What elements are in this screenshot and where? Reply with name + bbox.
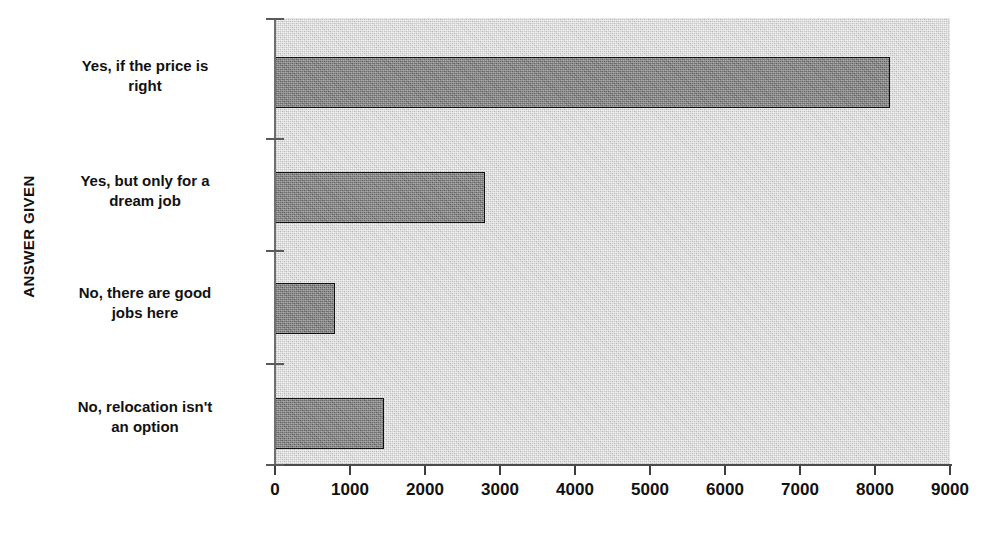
bar-1	[275, 172, 485, 223]
category-label-3-line-1: an option	[25, 417, 265, 437]
category-label-2-line-1: jobs here	[25, 303, 265, 323]
category-label-1: Yes, but only for a dream job	[25, 171, 265, 211]
x-axis-tick-9	[949, 466, 951, 475]
x-axis-tick-3	[499, 466, 501, 475]
plot-area	[275, 18, 950, 465]
category-label-1-line-0: Yes, but only for a	[25, 171, 265, 191]
bar-3	[275, 398, 384, 449]
category-label-0-line-1: right	[25, 76, 265, 96]
bar-2	[275, 283, 335, 334]
x-axis-tick-1	[349, 466, 351, 475]
category-label-column: Yes, if the price is right Yes, but only…	[25, 18, 265, 465]
x-axis-tick-0	[274, 466, 276, 475]
x-axis-line	[266, 464, 952, 466]
x-axis-tick-5	[649, 466, 651, 475]
x-axis-tick-label-9: 9000	[905, 480, 988, 500]
y-axis-tick-0	[266, 18, 284, 20]
category-label-3-line-0: No, relocation isn't	[25, 397, 265, 417]
category-label-1-line-1: dream job	[25, 191, 265, 211]
y-axis-line	[274, 18, 276, 466]
category-label-0: Yes, if the price is right	[25, 56, 265, 96]
x-axis-tick-8	[874, 466, 876, 475]
x-axis-tick-2	[424, 466, 426, 475]
category-label-2-line-0: No, there are good	[25, 283, 265, 303]
x-axis-tick-6	[724, 466, 726, 475]
bar-chart: ANSWER GIVEN Yes, if the price is right …	[0, 0, 988, 543]
category-label-0-line-0: Yes, if the price is	[25, 56, 265, 76]
x-axis-tick-4	[574, 466, 576, 475]
y-axis-tick-3	[266, 363, 284, 365]
category-label-2: No, there are good jobs here	[25, 283, 265, 323]
y-axis-tick-2	[266, 250, 284, 252]
x-axis-tick-7	[799, 466, 801, 475]
category-label-3: No, relocation isn't an option	[25, 397, 265, 437]
bar-0	[275, 57, 890, 108]
y-axis-tick-1	[266, 138, 284, 140]
